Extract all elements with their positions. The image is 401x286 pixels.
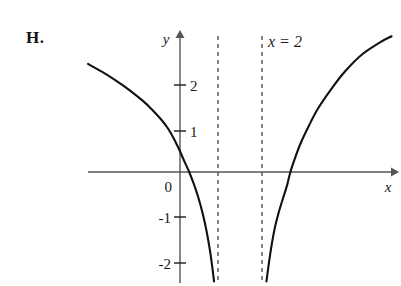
y-tick-label-1: 1 (190, 124, 198, 140)
figure-container: H. 2 1 0 -1 -2 y x x = 2 (0, 0, 401, 286)
x-axis (88, 168, 399, 177)
y-axis-arrowhead (176, 30, 185, 38)
asymptote-label-x-equals-2: x = 2 (267, 33, 302, 50)
y-axis-label: y (161, 31, 170, 47)
y-tick-label-2: 2 (190, 78, 198, 94)
y-tick-label-minus-1: -1 (159, 210, 172, 226)
origin-label: 0 (165, 179, 173, 195)
graph-plot: 2 1 0 -1 -2 y x x = 2 (0, 0, 401, 286)
x-axis-label: x (384, 179, 392, 195)
y-tick-label-minus-2: -2 (159, 256, 172, 272)
x-axis-arrowhead (391, 168, 399, 177)
curve-right-branch (266, 36, 391, 281)
